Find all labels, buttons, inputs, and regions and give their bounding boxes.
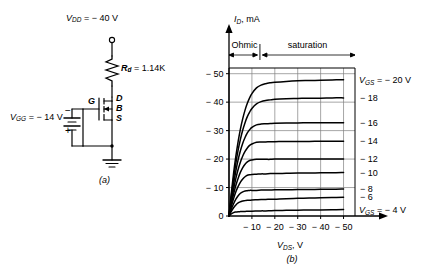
curves	[229, 80, 344, 216]
vdd-value: = − 40 V	[84, 13, 118, 23]
body-arrow	[104, 106, 109, 111]
vgg-subscript: GG	[16, 115, 26, 122]
curve-label-VGS-14: − 14	[360, 136, 378, 146]
terminal-s-label: S	[116, 114, 122, 123]
curve-label-VGS-18: − 18	[360, 93, 378, 103]
terminal-g-label: G	[88, 97, 95, 106]
panel-b-caption: (b)	[287, 254, 298, 264]
x-tick-label: − 10	[243, 222, 261, 232]
curve-label-VGS-6: − 6	[360, 192, 373, 202]
y-tick-label: − 10	[206, 183, 224, 193]
curve-label-VGS-20: VGS = − 20 V	[359, 75, 411, 86]
x-tick-label: − 20	[266, 222, 284, 232]
y-tick-label: − 40	[206, 97, 224, 107]
rd-value: = 1.14K	[134, 63, 165, 73]
rd-label: Rd = 1.14K	[121, 64, 165, 74]
curve-label-VGS-10: − 10	[360, 168, 378, 178]
rd-subscript: d	[128, 66, 132, 73]
saturation-region-arrow	[262, 53, 355, 57]
y-tick-label: − 20	[206, 154, 224, 164]
id-vds-characteristic-chart: Ohmicsaturation− 10− 20− 30− 40− 500− 10…	[212, 0, 429, 266]
y-tick-label: − 50	[206, 69, 224, 79]
vdd-subscript: DD	[72, 16, 81, 23]
x-tick-label: − 30	[289, 222, 307, 232]
terminal-b-label: B	[116, 104, 123, 113]
curve-VGS-16	[229, 123, 344, 216]
y-tick-label: 0	[218, 211, 223, 221]
terminal-d-label: D	[116, 94, 123, 103]
saturation-region-label: saturation	[288, 40, 328, 50]
ohmic-region-label: Ohmic	[231, 40, 258, 50]
curve-label-VGS-16: − 16	[360, 118, 378, 128]
y-axis-arrowhead	[225, 24, 232, 33]
curve-VGS-14	[229, 141, 344, 216]
x-axis-title: VDS, V	[277, 240, 303, 251]
battery-minus-label: −	[65, 106, 71, 116]
circuit-panel: VDD = − 40 V Rd = 1.14K VGG = − 14 V − +…	[0, 0, 212, 266]
curve-label-VGS-12: − 12	[360, 154, 378, 164]
x-tick-label: − 40	[312, 222, 330, 232]
circuit-schematic	[0, 0, 212, 266]
vdd-terminal-node	[109, 37, 114, 42]
curve-label-VGS-4: VGS = − 4 V	[359, 205, 406, 216]
vgg-label: VGG = − 14 V	[10, 113, 63, 123]
curve-VGS-4	[229, 209, 344, 216]
curve-VGS-20	[229, 80, 344, 216]
vdd-label: VDD = − 40 V	[66, 14, 118, 24]
vgg-value: = − 14 V	[29, 112, 63, 122]
curve-VGS-6	[229, 197, 344, 216]
chart-panel: Ohmicsaturation− 10− 20− 30− 40− 500− 10…	[212, 0, 429, 266]
ohmic-region-arrow	[229, 53, 257, 57]
y-tick-label: − 30	[206, 126, 224, 136]
y-axis-title: ID, mA	[234, 14, 260, 25]
battery-plus-label: +	[65, 126, 71, 136]
panel-a-caption: (a)	[99, 176, 110, 185]
x-tick-label: − 50	[335, 222, 353, 232]
